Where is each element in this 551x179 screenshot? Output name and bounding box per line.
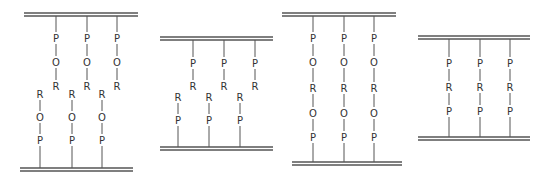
- atom-label-o: O: [52, 57, 60, 68]
- atom-label-p: P: [341, 132, 347, 143]
- atom-label-p: P: [477, 106, 483, 117]
- bottom-chain: RP: [206, 92, 213, 148]
- panel-3: POROPPOROPPOROP: [282, 13, 402, 165]
- atom-label-p: P: [371, 33, 377, 44]
- atom-label-r: R: [114, 81, 121, 92]
- bridge-chain: PRP: [507, 39, 514, 137]
- atom-label-o: O: [370, 57, 378, 68]
- atom-label-r: R: [310, 83, 317, 94]
- atom-label-r: R: [252, 81, 259, 92]
- atom-label-p: P: [310, 33, 316, 44]
- bottom-chain: ROP: [36, 89, 44, 169]
- atom-label-r: R: [84, 81, 91, 92]
- top-plate: [282, 13, 396, 16]
- atom-label-p: P: [310, 132, 316, 143]
- atom-label-r: R: [341, 83, 348, 94]
- atom-label-r: R: [446, 82, 453, 93]
- atom-label-p: P: [69, 135, 75, 146]
- atom-label-r: R: [371, 83, 378, 94]
- atom-label-p: P: [237, 115, 243, 126]
- atom-label-o: O: [340, 57, 348, 68]
- top-chain: POR: [83, 16, 91, 92]
- atom-label-r: R: [206, 92, 213, 103]
- atom-label-o: O: [113, 57, 121, 68]
- atom-label-p: P: [507, 58, 513, 69]
- atom-label-p: P: [206, 115, 212, 126]
- atom-label-r: R: [53, 81, 60, 92]
- atom-label-p: P: [477, 58, 483, 69]
- bridge-chain: PRP: [446, 39, 453, 137]
- top-plate: [418, 36, 530, 39]
- atom-label-p: P: [53, 33, 59, 44]
- bottom-plate: [292, 162, 402, 165]
- bridge-chain: POROP: [340, 16, 348, 162]
- atom-label-o: O: [68, 112, 76, 123]
- atom-label-o: O: [98, 112, 106, 123]
- top-chain: PR: [221, 40, 228, 92]
- top-chain: POR: [52, 16, 60, 92]
- atom-label-p: P: [446, 58, 452, 69]
- atom-label-r: R: [37, 89, 44, 100]
- panel-2: PRPRPRRPRPRP: [160, 37, 273, 150]
- bottom-plate: [20, 168, 133, 171]
- bottom-chain: RP: [237, 92, 244, 148]
- top-chain: PR: [190, 40, 197, 92]
- bottom-chain: ROP: [68, 89, 76, 169]
- atom-label-o: O: [36, 112, 44, 123]
- panel-4: PRPPRPPRP: [418, 36, 530, 140]
- atom-label-p: P: [507, 106, 513, 117]
- top-plate: [160, 37, 273, 40]
- atom-label-p: P: [37, 135, 43, 146]
- atom-label-p: P: [371, 132, 377, 143]
- atom-label-o: O: [370, 108, 378, 119]
- atom-label-p: P: [84, 33, 90, 44]
- atom-label-r: R: [237, 92, 244, 103]
- atom-label-r: R: [69, 89, 76, 100]
- atom-label-r: R: [221, 81, 228, 92]
- atom-label-r: R: [507, 82, 514, 93]
- atom-label-o: O: [309, 57, 317, 68]
- bottom-chain: RP: [175, 92, 182, 148]
- atom-label-r: R: [99, 89, 106, 100]
- atom-label-p: P: [114, 33, 120, 44]
- top-chain: POR: [113, 16, 121, 92]
- top-plate: [24, 13, 138, 16]
- bottom-plate: [418, 137, 530, 140]
- atom-label-r: R: [190, 81, 197, 92]
- atom-label-p: P: [221, 58, 227, 69]
- bottom-chain: ROP: [98, 89, 106, 169]
- panel-1: PORPORPORROPROPROP: [20, 13, 138, 171]
- atom-label-r: R: [477, 82, 484, 93]
- atom-label-p: P: [175, 115, 181, 126]
- bridge-chain: POROP: [370, 16, 378, 162]
- atom-label-o: O: [340, 108, 348, 119]
- atom-label-p: P: [252, 58, 258, 69]
- atom-label-p: P: [190, 58, 196, 69]
- bridge-chain: PRP: [477, 39, 484, 137]
- atom-label-o: O: [83, 57, 91, 68]
- layer-structure-diagram: PORPORPORROPROPROPPRPRPRRPRPRPPOROPPOROP…: [0, 0, 551, 179]
- atom-label-p: P: [341, 33, 347, 44]
- atom-label-p: P: [446, 106, 452, 117]
- atom-label-o: O: [309, 108, 317, 119]
- top-chain: PR: [252, 40, 259, 92]
- atom-label-p: P: [99, 135, 105, 146]
- bottom-plate: [160, 147, 273, 150]
- bridge-chain: POROP: [309, 16, 317, 162]
- atom-label-r: R: [175, 92, 182, 103]
